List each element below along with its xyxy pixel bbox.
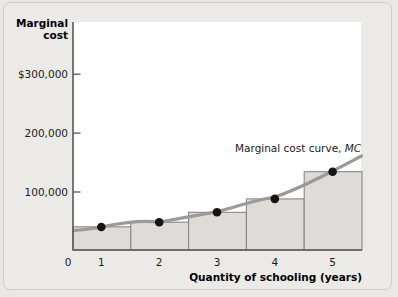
bar-x3 xyxy=(189,212,247,250)
y-tick-label-200000: 200,000 xyxy=(25,127,68,139)
y-axis-title-line2: cost xyxy=(43,29,68,41)
x-tick-label-5: 5 xyxy=(329,256,336,268)
curve-annotation-text: Marginal cost curve, xyxy=(235,142,345,154)
data-point-x5 xyxy=(328,167,337,176)
y-tick-label-300000: $300,000 xyxy=(18,68,68,80)
x-tick-label-3: 3 xyxy=(214,256,221,268)
x-tick-label-4: 4 xyxy=(271,256,278,268)
x-tick-label-0: 0 xyxy=(65,256,72,268)
x-axis-title: Quantity of schooling (years) xyxy=(189,271,362,283)
x-tick-label-1: 1 xyxy=(98,256,105,268)
data-point-x4 xyxy=(271,195,280,204)
y-axis-title-line1: Marginal xyxy=(16,17,68,29)
marginal-cost-chart: $300,000 200,000 100,000 Marginal cost 0… xyxy=(0,0,398,297)
data-point-x2 xyxy=(155,218,164,227)
y-tick-label-100000: 100,000 xyxy=(25,186,68,198)
data-point-x3 xyxy=(213,208,222,217)
chart-figure: $300,000 200,000 100,000 Marginal cost 0… xyxy=(0,0,398,297)
curve-annotation-symbol: MC xyxy=(345,142,362,154)
data-point-x1 xyxy=(97,223,106,232)
bar-x5 xyxy=(304,172,362,250)
y-tick-marks xyxy=(73,74,81,192)
bar-x4 xyxy=(246,199,304,250)
curve-annotation-label: Marginal cost curve, MC xyxy=(235,142,362,154)
x-tick-label-2: 2 xyxy=(156,256,163,268)
